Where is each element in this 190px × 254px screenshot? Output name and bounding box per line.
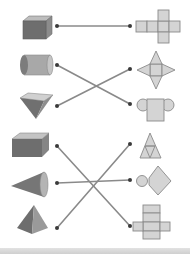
rectangular-prism-icon: [12, 133, 49, 157]
inverted-pyramid-icon: [20, 93, 53, 119]
cylinder-icon: [20, 55, 53, 75]
dot-cube-net[interactable]: [128, 24, 132, 28]
cube-net-icon: [136, 10, 180, 43]
dot-prism-net[interactable]: [128, 224, 132, 228]
cone-icon: [11, 172, 48, 197]
line-cylinder: [57, 65, 130, 104]
square-pyramid-net-icon: [137, 51, 175, 89]
dot-cube[interactable]: [55, 24, 59, 28]
dot-pyramid[interactable]: [55, 226, 59, 230]
triangle-net-icon: [140, 133, 161, 158]
square-pyramid-icon: [17, 205, 48, 234]
left-dots: [55, 24, 59, 230]
footer-bar: [0, 248, 190, 254]
prism-net-icon: [133, 205, 170, 239]
line-cone: [57, 180, 130, 183]
dot-triangle-net[interactable]: [128, 142, 132, 146]
dot-inverted-pyramid[interactable]: [55, 104, 59, 108]
right-dots: [128, 24, 132, 228]
cone-net-icon: [137, 166, 172, 195]
dot-pyramid-net[interactable]: [128, 67, 132, 71]
line-inverted-pyramid: [57, 69, 130, 106]
cylinder-net-icon: [137, 99, 174, 121]
line-pyramid: [57, 144, 130, 228]
dot-cone-net[interactable]: [128, 178, 132, 182]
dot-cylinder[interactable]: [55, 63, 59, 67]
dot-cone[interactable]: [55, 181, 59, 185]
dot-rect-prism[interactable]: [55, 144, 59, 148]
connection-lines: [57, 26, 130, 228]
matching-diagram: [0, 0, 190, 254]
cube-icon: [23, 16, 52, 39]
dot-cylinder-net[interactable]: [128, 102, 132, 106]
